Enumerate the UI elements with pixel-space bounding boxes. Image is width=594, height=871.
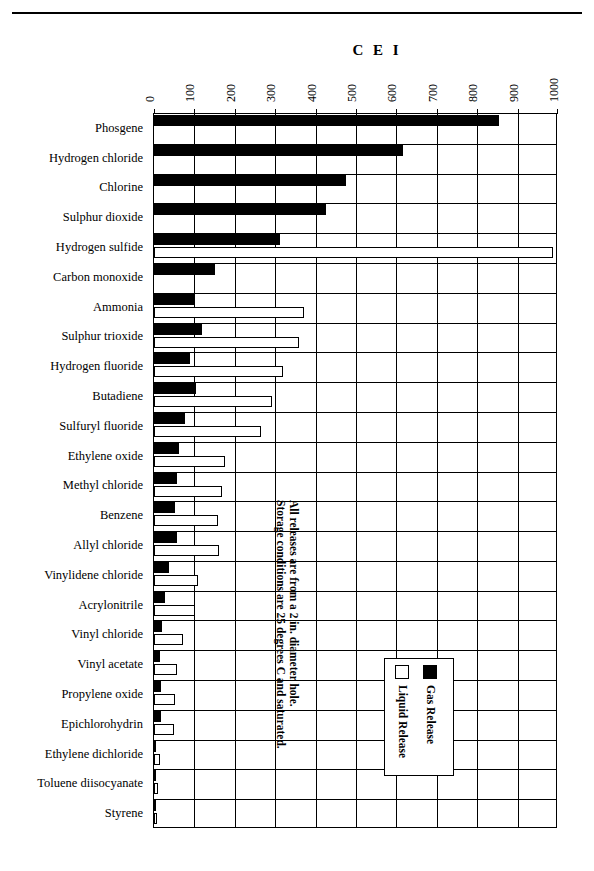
bar-liquid-release <box>154 247 553 258</box>
y-label-hydrogen-fluoride: Hydrogen fluoride <box>50 360 143 373</box>
bar-gas-release <box>154 145 403 156</box>
legend-label: Liquid Release <box>397 685 409 758</box>
bar-liquid-release <box>154 783 158 794</box>
chart-legend: Gas ReleaseLiquid Release <box>384 658 454 776</box>
bar-row <box>154 710 556 740</box>
x-tick-label-900: 900 <box>507 84 522 102</box>
bar-row <box>154 799 556 829</box>
y-label-vinyl-chloride: Vinyl chloride <box>71 628 143 641</box>
y-label-sulfuryl-fluoride: Sulfuryl fluoride <box>59 420 143 433</box>
row-separator <box>154 650 556 651</box>
bar-row <box>154 531 556 561</box>
bar-gas-release <box>154 324 202 335</box>
row-separator <box>154 412 556 413</box>
bar-row <box>154 442 556 472</box>
annotation-line-2: Storage conditions are 25 degrees C and … <box>274 500 287 790</box>
row-separator <box>154 680 556 681</box>
y-label-carbon-monoxide: Carbon monoxide <box>53 271 143 284</box>
y-label-sulphur-trioxide: Sulphur trioxide <box>61 330 143 343</box>
bar-liquid-release <box>154 426 261 437</box>
bar-gas-release <box>154 651 160 662</box>
x-tick-label-300: 300 <box>264 84 279 102</box>
bar-row <box>154 323 556 353</box>
bar-row <box>154 591 556 621</box>
y-label-methyl-chloride: Methyl chloride <box>63 479 143 492</box>
row-separator <box>154 531 556 532</box>
bar-liquid-release <box>154 456 225 467</box>
row-separator <box>154 740 556 741</box>
row-separator <box>154 323 556 324</box>
bar-liquid-release <box>154 694 175 705</box>
bar-gas-release <box>154 562 169 573</box>
row-separator <box>154 591 556 592</box>
bar-row <box>154 620 556 650</box>
bar-liquid-release <box>154 307 304 318</box>
y-label-hydrogen-chloride: Hydrogen chloride <box>49 152 143 165</box>
row-separator <box>154 442 556 443</box>
bar-row <box>154 412 556 442</box>
row-separator <box>154 501 556 502</box>
x-tick-label-0: 0 <box>143 96 158 102</box>
bar-row <box>154 293 556 323</box>
bar-liquid-release <box>154 486 222 497</box>
bar-gas-release <box>154 473 177 484</box>
bar-liquid-release <box>154 337 299 348</box>
annotation-line-1: All releases are from a 2 in. diameter h… <box>287 500 300 790</box>
row-separator <box>154 710 556 711</box>
row-separator <box>154 352 556 353</box>
bar-gas-release <box>154 175 346 186</box>
row-separator <box>154 620 556 621</box>
bar-gas-release <box>154 711 161 722</box>
bar-row <box>154 144 556 174</box>
x-tick-label-1000: 1000 <box>547 78 562 102</box>
y-label-ethylene-oxide: Ethylene oxide <box>68 450 143 463</box>
legend-swatch-filled <box>423 665 437 679</box>
bar-gas-release <box>154 741 156 752</box>
bar-gas-release <box>154 413 185 424</box>
bar-gas-release <box>154 502 175 513</box>
bar-row <box>154 174 556 204</box>
bar-liquid-release <box>154 366 283 377</box>
bar-liquid-release <box>154 396 272 407</box>
bar-row <box>154 561 556 591</box>
bar-gas-release <box>154 443 179 454</box>
bar-row <box>154 472 556 502</box>
bar-liquid-release <box>154 813 157 824</box>
bar-liquid-release <box>154 754 160 765</box>
bar-gas-release <box>154 353 190 364</box>
bar-gas-release <box>154 770 156 781</box>
y-label-allyl-chloride: Allyl chloride <box>73 539 143 552</box>
x-tick-label-400: 400 <box>305 84 320 102</box>
bar-row <box>154 769 556 799</box>
bar-row <box>154 501 556 531</box>
y-axis-category-labels: PhosgeneHydrogen chlorideChlorineSulphur… <box>0 113 149 828</box>
bar-row <box>154 203 556 233</box>
bar-liquid-release <box>154 515 218 526</box>
chart-page: C E I 01002003004005006007008009001000 P… <box>0 0 594 871</box>
y-label-toluene-diisocyanate: Toluene diisocyanate <box>37 777 143 790</box>
bar-liquid-release <box>154 575 198 586</box>
bar-gas-release <box>154 234 280 245</box>
row-separator <box>154 472 556 473</box>
y-label-propylene-oxide: Propylene oxide <box>61 688 143 701</box>
x-axis-tick-labels: 01002003004005006007008009001000 <box>0 0 594 110</box>
bar-row <box>154 382 556 412</box>
bar-row <box>154 740 556 770</box>
y-label-vinylidene-chloride: Vinylidene chloride <box>44 569 143 582</box>
y-label-epichlorohydrin: Epichlorohydrin <box>61 718 143 731</box>
x-tick-label-600: 600 <box>385 84 400 102</box>
y-label-phosgene: Phosgene <box>95 122 143 135</box>
bar-row <box>154 263 556 293</box>
bar-gas-release <box>154 681 161 692</box>
legend-swatch-open <box>395 665 409 679</box>
bar-row <box>154 352 556 382</box>
bar-rows <box>154 114 556 827</box>
row-separator <box>154 769 556 770</box>
y-label-ammonia: Ammonia <box>93 301 143 314</box>
y-label-butadiene: Butadiene <box>92 390 143 403</box>
bar-gas-release <box>154 115 499 126</box>
bar-row <box>154 114 556 144</box>
y-label-styrene: Styrene <box>105 807 143 820</box>
bar-row <box>154 680 556 710</box>
y-label-chlorine: Chlorine <box>99 181 143 194</box>
